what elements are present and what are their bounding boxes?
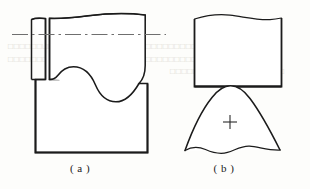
view-b-group bbox=[185, 15, 282, 154]
view-b-upper-block bbox=[195, 18, 282, 87]
figure-container: □□□□□□□□□□□□□□□□□□□□□□□□□□□□□□□□□□ □□□□□… bbox=[0, 0, 310, 189]
caption-view-a: ( a ) bbox=[48, 162, 112, 174]
view-a-group bbox=[12, 14, 166, 153]
caption-view-b: ( b ) bbox=[192, 162, 256, 174]
technical-drawing-canvas bbox=[0, 0, 310, 189]
view-b-bell-profile bbox=[185, 86, 280, 151]
